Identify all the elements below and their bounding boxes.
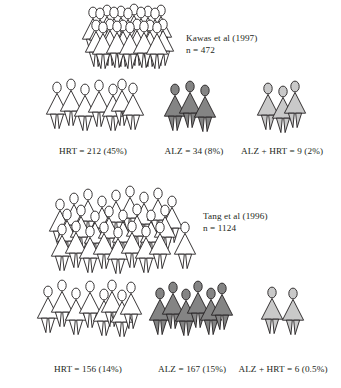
pictogram-canvas [0,0,341,388]
kawas-hrt-group [46,79,143,131]
group-label-tang-hrt: HRT = 156 (14%) [54,364,122,376]
tang-alz-group [149,281,232,336]
kawas-alzhrt-group [257,81,305,133]
study-n-kawas: n = 472 [186,45,257,57]
pictogram-figure: Kawas et al (1997) n = 472 Tang et al (1… [0,0,341,388]
study-n-tang: n = 1124 [203,223,268,235]
kawas-alz-group [164,81,215,132]
study-citation-tang: Tang et al (1996) [203,211,268,221]
tang-cohort-cluster [49,186,195,274]
study-caption-kawas: Kawas et al (1997) n = 472 [186,33,257,57]
group-label-tang-alz-hrt: ALZ + HRT = 6 (0.5%) [238,364,327,376]
kawas-cohort-cluster [82,4,173,69]
study-caption-tang: Tang et al (1996) n = 1124 [203,211,268,235]
group-label-tang-alz: ALZ = 167 (15%) [158,364,226,376]
tang-alzhrt-group [261,287,303,335]
group-label-kawas-alz-hrt: ALZ + HRT = 9 (2%) [241,146,323,158]
group-label-kawas-alz: ALZ = 34 (8%) [165,146,224,158]
tang-hrt-group [37,280,141,337]
group-label-kawas-hrt: HRT = 212 (45%) [59,146,127,158]
study-citation-kawas: Kawas et al (1997) [186,33,257,43]
